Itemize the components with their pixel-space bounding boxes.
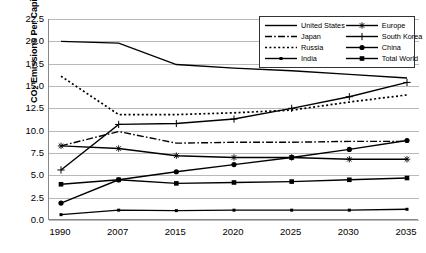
data-point-marker	[233, 209, 236, 212]
legend-swatch-icon	[264, 54, 298, 63]
legend-swatch-icon	[345, 54, 379, 63]
legend-swatch-icon	[264, 43, 298, 52]
legend-label: India	[298, 53, 345, 64]
x-axis-tick-label: 2025	[268, 226, 314, 237]
data-point-marker	[403, 79, 410, 86]
data-point-marker	[358, 33, 365, 40]
data-point-marker	[116, 178, 121, 183]
x-axis-tick-label: 2015	[152, 226, 198, 237]
y-axis-tick-label: 7.5	[4, 147, 44, 158]
legend-row: RussiaChina	[264, 42, 422, 53]
legend-swatch-icon	[264, 21, 298, 30]
series-europe	[58, 143, 410, 163]
legend-swatch-icon	[345, 43, 379, 52]
y-axis-tick-label: 5.0	[4, 169, 44, 180]
series-japan	[61, 132, 407, 146]
series-line	[61, 140, 407, 203]
series-line	[61, 132, 407, 146]
data-point-marker	[231, 154, 237, 160]
x-axis-tick-label: 2007	[95, 226, 141, 237]
data-point-marker	[232, 180, 237, 185]
data-point-marker	[404, 156, 410, 162]
legend-swatch	[345, 20, 379, 31]
legend-row: JapanSouth Korea	[264, 31, 422, 42]
series-total-world	[59, 176, 410, 187]
data-point-marker	[346, 93, 353, 100]
data-point-marker	[404, 138, 409, 143]
data-point-marker	[405, 176, 410, 181]
legend-swatch-icon	[345, 21, 379, 30]
x-axis-tick-label: 2035	[383, 226, 426, 237]
data-point-marker	[60, 213, 63, 216]
x-axis-tick-label: 1990	[37, 226, 83, 237]
data-point-marker	[347, 178, 352, 183]
data-point-marker	[115, 145, 121, 151]
legend-swatch	[264, 53, 298, 64]
data-point-marker	[174, 169, 179, 174]
data-point-marker	[359, 45, 364, 50]
y-axis-title: CO2 Emissions Per Capita	[29, 0, 39, 127]
data-point-marker	[406, 208, 409, 211]
legend-row: United StatesEurope	[264, 20, 422, 31]
data-point-marker	[346, 156, 352, 162]
data-point-marker	[347, 147, 352, 152]
legend-label: China	[379, 42, 423, 53]
legend-swatch	[345, 31, 379, 42]
y-axis-tick-label: 0.0	[4, 214, 44, 225]
data-point-marker	[280, 57, 283, 60]
data-point-marker	[173, 120, 180, 127]
x-axis-tick-label: 2030	[325, 226, 371, 237]
legend-swatch	[264, 20, 298, 31]
data-point-marker	[173, 152, 179, 158]
legend-swatch-icon	[345, 32, 379, 41]
legend-swatch	[345, 42, 379, 53]
data-point-marker	[58, 200, 63, 205]
legend-swatch	[345, 53, 379, 64]
data-point-marker	[288, 105, 295, 112]
data-point-marker	[230, 115, 237, 122]
data-point-marker	[231, 162, 236, 167]
legend-table: United StatesEuropeJapanSouth KoreaRussi…	[264, 20, 422, 64]
co2-emissions-line-chart: CO2 Emissions Per Capita 0.02.55.07.510.…	[0, 0, 426, 253]
data-point-marker	[359, 22, 365, 28]
legend-label: Total World	[379, 53, 423, 64]
data-point-marker	[58, 143, 64, 149]
gridline	[49, 220, 419, 221]
data-point-marker	[289, 155, 294, 160]
legend-swatch	[264, 42, 298, 53]
legend-row: IndiaTotal World	[264, 53, 422, 64]
data-point-marker	[59, 182, 64, 187]
data-point-marker	[290, 209, 293, 212]
legend: United StatesEuropeJapanSouth KoreaRussi…	[259, 16, 415, 68]
legend-label: Europe	[379, 20, 423, 31]
legend-label: United States	[298, 20, 345, 31]
x-axis-tick-label: 2020	[210, 226, 256, 237]
legend-swatch	[264, 31, 298, 42]
data-point-marker	[117, 209, 120, 212]
series-india	[60, 208, 409, 216]
legend-label: South Korea	[379, 31, 423, 42]
data-point-marker	[348, 209, 351, 212]
data-point-marker	[360, 56, 365, 61]
data-point-marker	[289, 179, 294, 184]
legend-swatch-icon	[264, 32, 298, 41]
data-point-marker	[175, 209, 178, 212]
legend-label: Russia	[298, 42, 345, 53]
y-axis-tick-label: 2.5	[4, 192, 44, 203]
legend-label: Japan	[298, 31, 345, 42]
data-point-marker	[174, 181, 179, 186]
